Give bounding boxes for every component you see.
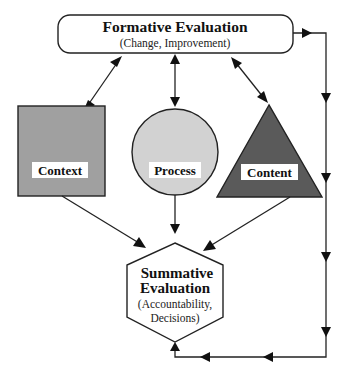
- formative-title: Formative Evaluation: [102, 18, 247, 35]
- arrowhead-down-icon: [321, 173, 331, 183]
- arrow-context-to-summative: [62, 196, 146, 248]
- arrowhead-down-icon: [321, 93, 331, 103]
- content-triangle: [217, 105, 322, 197]
- context-square: [18, 106, 105, 196]
- process-circle: [132, 109, 218, 195]
- formative-subtitle: (Change, Improvement): [120, 37, 231, 50]
- content-label: Content: [247, 165, 292, 180]
- arrowhead-icon: [231, 57, 242, 69]
- summative-subtitle-line2: Decisions): [150, 312, 199, 325]
- arrowhead-icon: [203, 240, 216, 251]
- arrowhead-right-icon: [302, 28, 312, 38]
- arrow-content-to-summative: [203, 197, 290, 251]
- context-node: Context: [18, 106, 105, 196]
- content-node: Content: [217, 105, 322, 197]
- evaluation-diagram: Formative Evaluation (Change, Improvemen…: [0, 0, 352, 382]
- summative-title-line2: Evaluation: [140, 280, 211, 296]
- bidirectional-arrow-process: [170, 54, 180, 107]
- arrowhead-left-icon: [263, 352, 273, 362]
- arrowhead-down-icon: [321, 252, 331, 262]
- process-node: Process: [132, 109, 218, 195]
- summative-subtitle-line1: (Accountability,: [138, 298, 212, 311]
- arrowhead-icon: [133, 237, 146, 248]
- arrowhead-down-icon: [321, 327, 331, 337]
- arrowhead-left-icon: [200, 352, 210, 362]
- process-label: Process: [154, 163, 196, 178]
- bidirectional-arrow-content: [231, 57, 268, 103]
- bidirectional-arrow-context: [83, 56, 122, 112]
- arrowhead-icon: [170, 224, 180, 234]
- arrowhead-icon: [170, 54, 180, 64]
- arrowhead-icon: [170, 97, 180, 107]
- summative-evaluation-node: Summative Evaluation (Accountability, De…: [127, 243, 223, 342]
- arrowhead-icon: [257, 91, 268, 103]
- formative-evaluation-node: Formative Evaluation (Change, Improvemen…: [58, 15, 293, 53]
- arrowhead-up-icon: [170, 342, 180, 351]
- context-label: Context: [38, 163, 83, 178]
- arrow-process-to-summative: [170, 195, 180, 234]
- summative-title-line1: Summative: [141, 265, 214, 281]
- arrowhead-icon: [110, 56, 122, 67]
